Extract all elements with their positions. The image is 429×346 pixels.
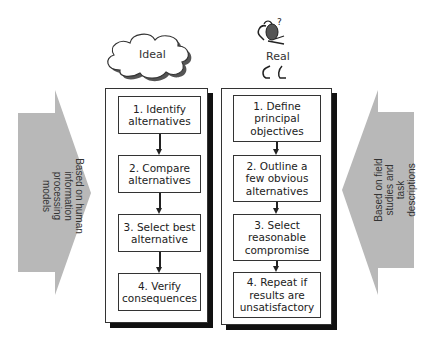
ideal-step-3: 3. Select best alternative (118, 214, 201, 252)
real-connector-1 (276, 142, 278, 149)
right-arrow-label: Based on field studies and task descript… (373, 120, 419, 260)
left-arrow-label: Based on human information processing mo… (39, 126, 85, 266)
svg-text:?: ? (277, 17, 282, 27)
real-step-1: 1. Define principal objectives (233, 95, 321, 142)
ideal-title: Ideal (139, 48, 166, 61)
ideal-step-1: 1. Identify alternatives (118, 96, 201, 134)
ideal-step-2: 2. Compare alternatives (118, 155, 201, 193)
ideal-connector-1 (159, 134, 161, 149)
real-title: Real (266, 50, 290, 63)
real-step-3: 3. Select reasonable compromise (233, 214, 321, 261)
real-step-4: 4. Repeat if results are unsatisfactory (233, 272, 321, 318)
real-step-2: 2. Outline a few obvious alternatives (233, 155, 321, 202)
ideal-step-4: 4. Verify consequences (118, 273, 201, 311)
thinking-person-icon: ? (250, 14, 310, 84)
ideal-connector-3 (159, 252, 161, 267)
ideal-connector-2 (159, 193, 161, 208)
